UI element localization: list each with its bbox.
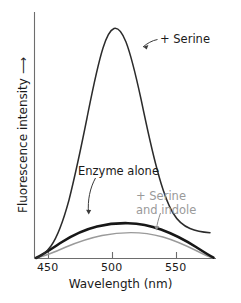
leader-line-enzyme-alone (88, 178, 95, 213)
x-tick-label-450: 450 (37, 261, 58, 274)
annotation-enzyme-alone: Enzyme alone (78, 165, 159, 179)
x-tick-label-500: 500 (101, 261, 122, 274)
curve-enzyme-alone (36, 223, 214, 258)
arrowhead-enzyme-alone (86, 210, 91, 215)
leader-line-serine (143, 40, 158, 48)
annotation-serine-and-indole-line2: and indole (136, 204, 196, 218)
x-axis-title: Wavelength (nm) (0, 277, 241, 291)
x-tick-label-550: 550 (165, 261, 186, 274)
fluorescence-spectra-figure: 450 500 550 Wavelength (nm) Fluorescence… (0, 0, 241, 303)
y-axis-title: Fluorescence intensity ⟶ (16, 30, 30, 240)
curve-serine-and-indole (36, 233, 213, 258)
annotation-serine-and-indole-line1: + Serine (136, 189, 186, 203)
annotation-plus-serine: + Serine (160, 33, 210, 47)
annotation-serine-and-indole: + Serine and indole (136, 190, 196, 217)
